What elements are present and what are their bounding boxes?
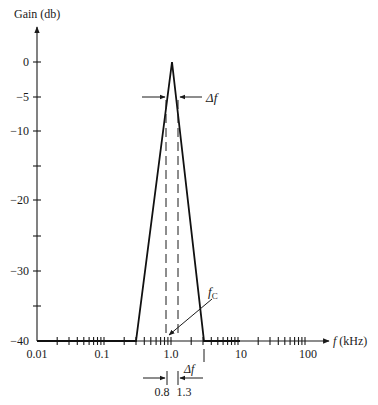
x-tick-labels: 0.01 0.1 1.0 10 100	[27, 347, 318, 361]
x-tick-label-100: 100	[299, 347, 317, 361]
y-axis-label: Gain (db)	[14, 7, 60, 21]
lower-frequency-label: 0.8	[155, 385, 170, 399]
delta-f-top-label: Δf	[205, 90, 220, 105]
x-tick-label-10: 10	[235, 347, 247, 361]
x-tick-label-0.01: 0.01	[27, 347, 48, 361]
bandpass-gain-chart: Gain (db) 0 −5 −10 −20 −30 −40	[0, 0, 378, 405]
x-axis-label: f (kHz)	[333, 334, 367, 348]
y-tick-label-minus30: −30	[10, 264, 29, 278]
y-tick-label-minus40: −40	[10, 334, 29, 348]
x-tick-label-1.0: 1.0	[164, 347, 179, 361]
y-tick-label-minus10: −10	[10, 124, 29, 138]
upper-frequency-label: 1.3	[177, 385, 192, 399]
x-tick-label-0.1: 0.1	[95, 347, 110, 361]
y-tick-label-0: 0	[23, 55, 29, 69]
center-frequency-arrow	[169, 299, 212, 335]
y-tick-labels: 0 −5 −10 −20 −30 −40	[10, 55, 29, 348]
center-frequency-label: fC	[208, 284, 218, 301]
y-tick-label-minus20: −20	[10, 193, 29, 207]
y-tick-label-minus5: −5	[16, 90, 29, 104]
delta-f-bottom-label: Δf	[183, 362, 196, 376]
